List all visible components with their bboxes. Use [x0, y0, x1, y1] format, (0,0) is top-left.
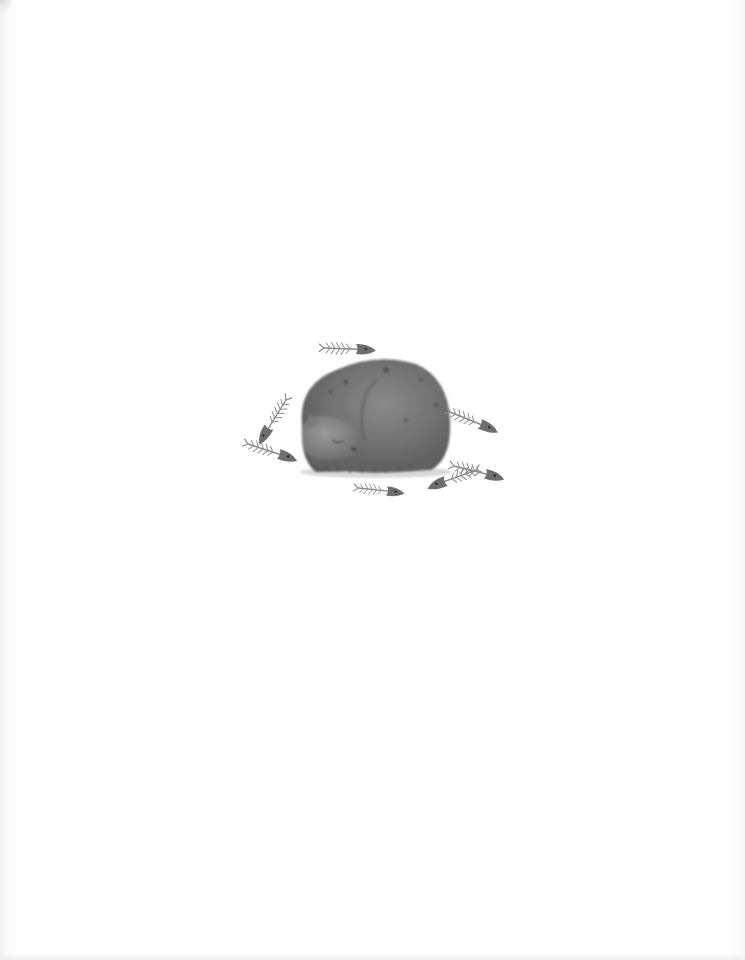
- fish-skeleton-top: [319, 342, 376, 356]
- page-corner-fold: [0, 0, 14, 12]
- sleeping-cat: [302, 359, 451, 473]
- fish-skeleton-left-upper: [253, 393, 293, 448]
- cat-illustration: [236, 330, 516, 510]
- fish-skeleton-bottom-right: [448, 459, 506, 484]
- fish-skeleton-right: [443, 405, 500, 437]
- page-bottom-edge: [0, 954, 745, 960]
- blank-page: [0, 0, 745, 960]
- fish-skeleton-bottom-center: [353, 482, 405, 498]
- fish-skeleton-left-lower: [241, 437, 299, 466]
